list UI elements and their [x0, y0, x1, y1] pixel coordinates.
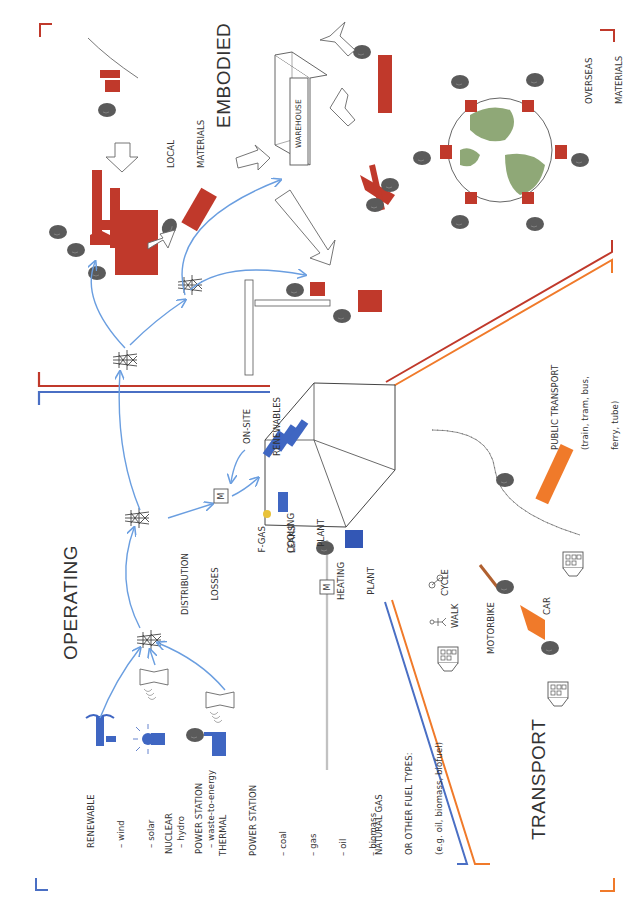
cooling-tower-icon [140, 669, 168, 700]
plane-icon [360, 165, 399, 212]
public-transport-label: PUBLIC TRANSPORT (train, tram, bus, ferr… [530, 365, 630, 450]
embodied-heading: EMBODIED [213, 23, 235, 128]
walk-label: WALK [450, 604, 460, 628]
train-icon [535, 444, 573, 504]
car-label: CAR [542, 597, 552, 615]
crane-truck-icon [333, 290, 382, 323]
overseas-materials-label: OVERSEAS MATERIALS [564, 56, 633, 104]
crane-icon [245, 280, 330, 375]
warehouse-label: WAREHOUSE [294, 99, 303, 148]
cooling-plant-label: COOLING PLANT [266, 513, 336, 553]
house-icon [438, 647, 458, 671]
corner-mark-embodied-top [40, 24, 52, 37]
globe-icon [413, 73, 589, 231]
factory-icon [49, 170, 158, 280]
house-icon [548, 682, 568, 706]
corner-mark-embodied-right [600, 30, 614, 42]
pylon-icon [113, 350, 137, 370]
cooling-tower-icon [206, 692, 234, 723]
electricity-meter-label: M [217, 492, 226, 499]
nuclear-icon [133, 724, 165, 754]
pylon-icon [137, 630, 161, 650]
distribution-losses-label: DISTRIBUTION LOSSES [160, 553, 230, 615]
corner-mark-operating [36, 878, 48, 890]
embodied-section [49, 22, 589, 375]
house-icon [563, 552, 583, 576]
renewable-icon [86, 715, 116, 746]
operating-heading: OPERATING [60, 545, 82, 660]
walk-icon [430, 618, 446, 626]
local-materials-label: LOCAL MATERIALS [146, 120, 216, 168]
thermal-power-icon [186, 728, 226, 756]
pylon-icon [125, 508, 149, 528]
corner-mark-transport [600, 878, 614, 891]
fuel-supply-label: NATURAL GAS OR OTHER FUEL TYPES: (e.g. o… [354, 742, 454, 855]
heating-plant-label: HEATING PLANT [316, 562, 386, 600]
quarry-icon [88, 38, 138, 117]
car-icon [520, 605, 559, 655]
motorbike-icon [480, 565, 514, 594]
transport-heading: TRANSPORT [528, 719, 550, 840]
ship-icon [353, 45, 392, 113]
motorbike-label: MOTORBIKE [486, 602, 496, 654]
cycle-label: CYCLE [440, 569, 450, 596]
transport-section [429, 430, 583, 706]
on-site-renewables-label: ON-SITE RENEWABLES [222, 397, 292, 456]
